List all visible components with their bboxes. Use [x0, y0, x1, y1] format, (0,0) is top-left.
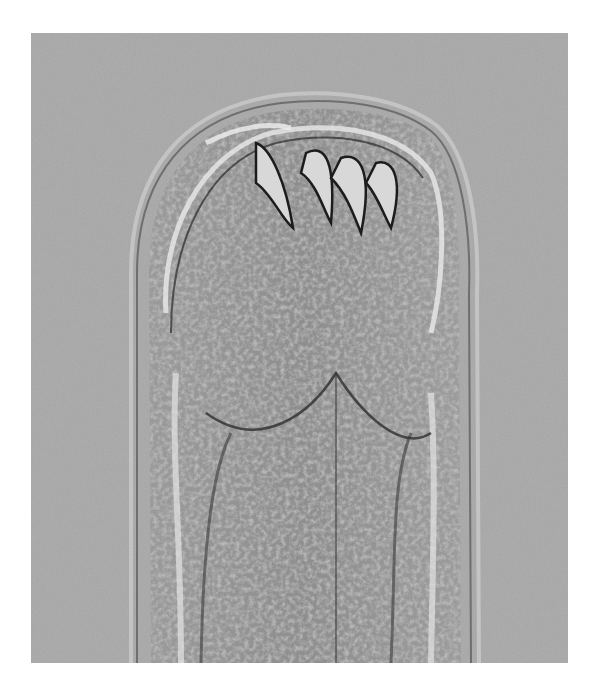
hookworm-micrograph — [31, 33, 568, 663]
micrograph-panel — [31, 33, 568, 663]
